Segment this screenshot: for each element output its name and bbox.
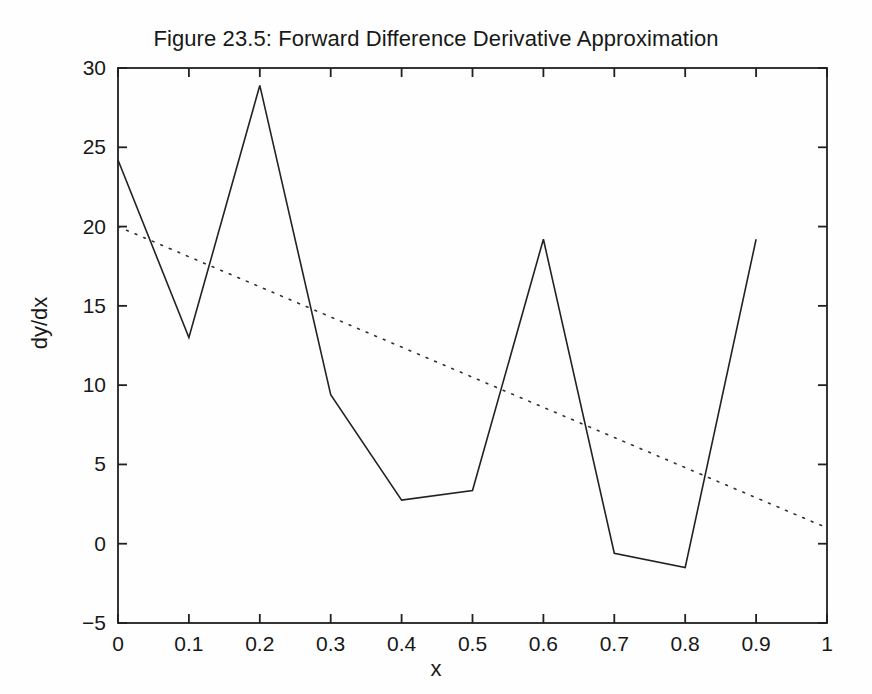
x-tick-label: 0.5 <box>458 632 487 656</box>
x-tick-label: 1 <box>821 632 833 656</box>
series-line-forward-difference-approximation <box>118 85 756 567</box>
x-tick-label: 0.9 <box>741 632 770 656</box>
series-layer <box>118 85 827 567</box>
axes-box <box>118 68 827 623</box>
x-tick-label: 0 <box>112 632 124 656</box>
x-tick-label: 0.1 <box>174 632 203 656</box>
y-axis-label: dy/dx <box>27 263 53 383</box>
y-tick-label: −5 <box>82 611 106 635</box>
y-tick-label: 25 <box>83 135 106 159</box>
series-line-exact-derivative <box>118 227 827 528</box>
y-tick-label: 10 <box>83 373 106 397</box>
x-tick-label: 0.2 <box>245 632 274 656</box>
y-tick-label: 30 <box>83 56 106 80</box>
x-tick-label: 0.4 <box>387 632 416 656</box>
tick-marks <box>118 68 827 623</box>
y-tick-label: 5 <box>94 452 106 476</box>
figure-canvas: Figure 23.5: Forward Difference Derivati… <box>0 0 872 694</box>
x-tick-label: 0.3 <box>316 632 345 656</box>
axes-frame <box>118 68 827 623</box>
x-tick-label: 0.8 <box>671 632 700 656</box>
x-tick-label: 0.7 <box>600 632 629 656</box>
x-tick-label: 0.6 <box>529 632 558 656</box>
plot-area <box>0 0 872 694</box>
y-tick-label: 15 <box>83 294 106 318</box>
y-tick-label: 20 <box>83 215 106 239</box>
x-axis-label: x <box>0 656 872 682</box>
y-tick-label: 0 <box>94 532 106 556</box>
